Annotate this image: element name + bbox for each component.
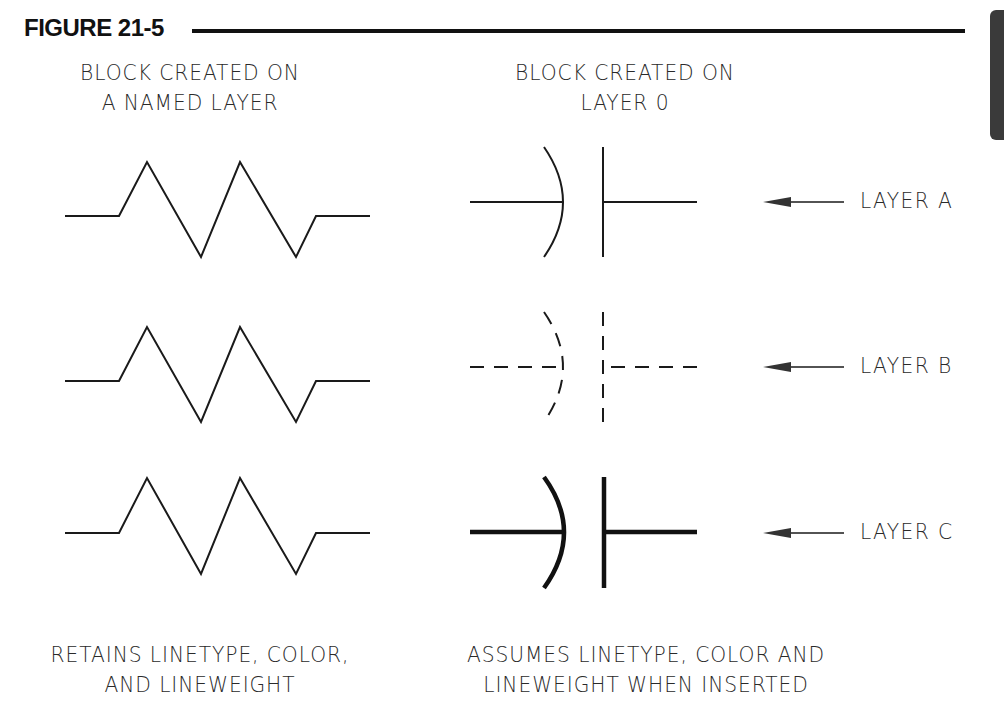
layer-label-c: LAYER C: [860, 519, 953, 544]
capacitor-symbol-row-c: [470, 477, 697, 588]
resistor-column: [65, 162, 370, 574]
footer-left-line-2: AND LINEWEIGHT: [34, 670, 365, 700]
arrow-left-icon-row-a: [763, 197, 844, 207]
arrow-left-icon-row-c: [763, 528, 844, 538]
layer-label-a: LAYER A: [860, 188, 953, 213]
layer-label-b: LAYER B: [860, 353, 953, 378]
resistor-symbol-row-c: [65, 478, 370, 574]
footer-right-line-2: LINEWEIGHT WHEN INSERTED: [436, 670, 856, 700]
footer-right-line-1: ASSUMES LINETYPE, COLOR AND: [436, 640, 856, 670]
footer-left-line-1: RETAINS LINETYPE, COLOR,: [34, 640, 365, 670]
footer-right: ASSUMES LINETYPE, COLOR AND LINEWEIGHT W…: [436, 640, 856, 700]
arrow-left-icon-row-b: [763, 362, 844, 372]
footer-left: RETAINS LINETYPE, COLOR, AND LINEWEIGHT: [34, 640, 365, 700]
resistor-symbol-row-a: [65, 162, 370, 257]
capacitor-symbol-row-b: [470, 312, 697, 422]
resistor-symbol-row-b: [65, 327, 370, 422]
capacitor-symbol-row-a: [470, 147, 697, 257]
